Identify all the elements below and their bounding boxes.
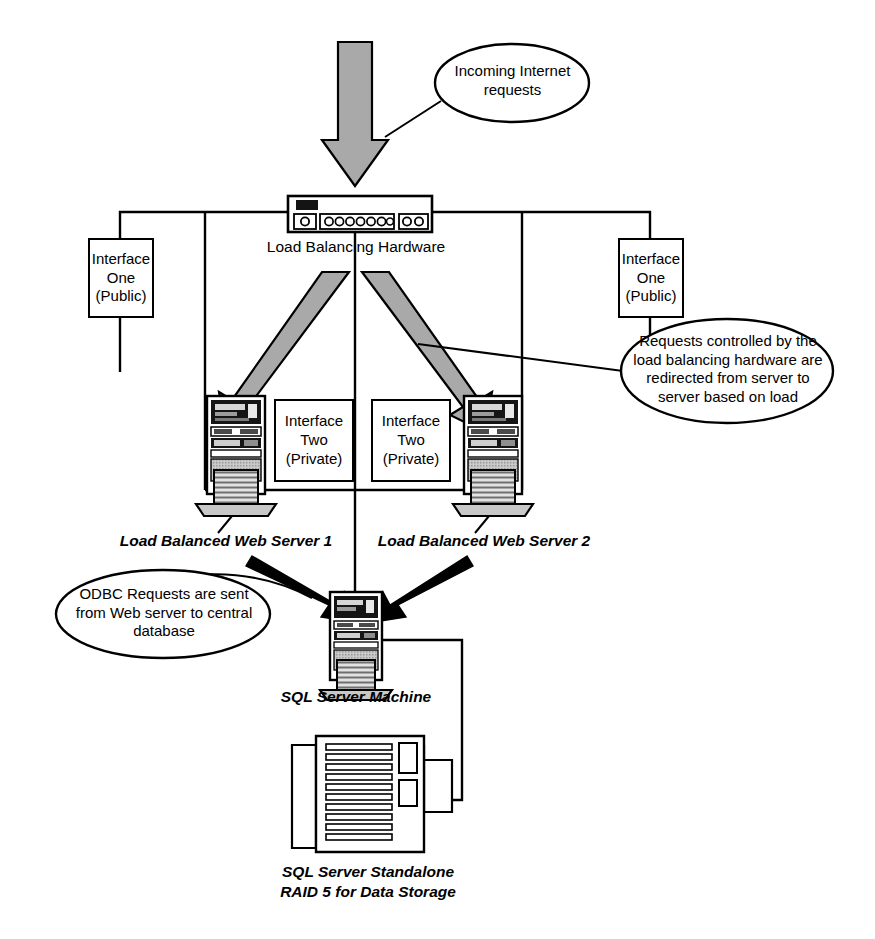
callout-odbc-text: ODBC Requests are sent from Web server t… bbox=[55, 585, 273, 641]
raid-array-label: SQL Server Standalone RAID 5 for Data St… bbox=[238, 862, 498, 902]
web-server-2-label: Load Balanced Web Server 2 bbox=[366, 531, 602, 551]
interface-two-private-right-label: Interface Two (Private) bbox=[382, 412, 440, 468]
server-tower-icon bbox=[320, 592, 392, 700]
callout-redirect-text: Requests controlled by the load balancin… bbox=[620, 332, 836, 406]
server-tower-icon bbox=[196, 396, 276, 516]
callout-incoming-leader-line bbox=[385, 101, 441, 137]
interface-two-private-right-box: Interface Two (Private) bbox=[371, 399, 451, 482]
server-tower-icon bbox=[453, 396, 533, 516]
interface-two-private-left-label: Interface Two (Private) bbox=[285, 412, 343, 468]
down-arrow-icon bbox=[322, 42, 388, 186]
raid-storage-icon bbox=[292, 736, 452, 852]
web-server-1-label: Load Balanced Web Server 1 bbox=[108, 531, 344, 551]
interface-two-private-left-box: Interface Two (Private) bbox=[274, 399, 354, 482]
interface-one-public-right-box: Interface One (Public) bbox=[618, 238, 684, 318]
sql-server-machine-label: SQL Server Machine bbox=[256, 687, 456, 707]
odbc-arrow-right-icon bbox=[375, 556, 473, 622]
callout-incoming-text: Incoming Internet requests bbox=[435, 62, 590, 99]
load-balancer-label: Load Balancing Hardware bbox=[250, 238, 462, 256]
network-architecture-diagram: Incoming Internet requests Requests cont… bbox=[0, 0, 875, 939]
interface-one-public-left-box: Interface One (Public) bbox=[88, 238, 154, 318]
network-appliance-icon bbox=[288, 196, 432, 232]
interface-one-public-right-label: Interface One (Public) bbox=[622, 250, 680, 306]
interface-one-public-left-label: Interface One (Public) bbox=[92, 250, 150, 306]
